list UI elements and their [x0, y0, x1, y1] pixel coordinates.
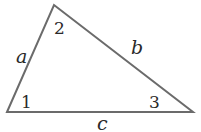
side-label-c: c	[97, 112, 108, 132]
triangle-shape	[7, 5, 193, 112]
side-label-a: a	[16, 45, 27, 67]
triangle-diagram: a b c 1 2 3	[0, 0, 201, 132]
angle-label-2: 2	[54, 18, 65, 38]
triangle-canvas: a b c 1 2 3	[0, 0, 201, 132]
side-label-b: b	[131, 36, 143, 58]
angle-label-1: 1	[21, 92, 32, 112]
angle-label-3: 3	[149, 92, 160, 112]
